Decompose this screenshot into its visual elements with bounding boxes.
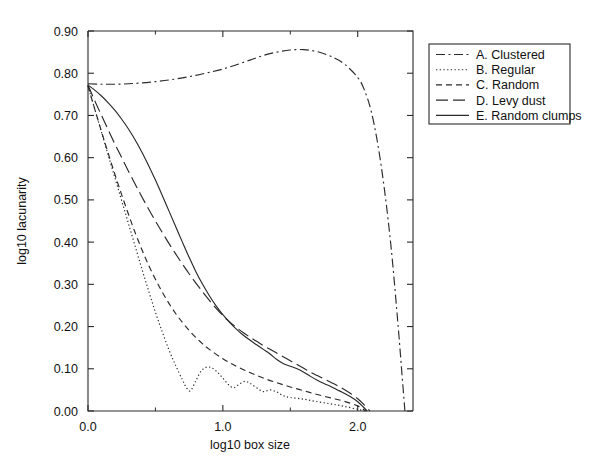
legend-label-random: C. Random [476, 78, 539, 92]
y-axis-title: log10 lacunarity [15, 176, 29, 264]
x-tick-label: 1.0 [214, 420, 231, 434]
y-tick-label: 0.20 [54, 320, 78, 334]
y-tick-label: 0.40 [54, 236, 78, 250]
legend-label-levy-dust: D. Levy dust [476, 94, 546, 108]
legend: A. ClusteredB. RegularC. RandomD. Levy d… [429, 44, 582, 124]
y-tick-label: 0.00 [54, 405, 78, 419]
x-axis-title: log10 box size [210, 438, 290, 452]
y-tick-label: 0.10 [54, 362, 78, 376]
y-tick-label: 0.50 [54, 193, 78, 207]
x-tick-label: 2.0 [349, 420, 366, 434]
y-tick-label: 0.30 [54, 278, 78, 292]
y-tick-label: 0.70 [54, 109, 78, 123]
lacunarity-chart-figure: 0.01.02.0 0.000.100.200.300.400.500.600.… [0, 0, 599, 471]
y-tick-label: 0.60 [54, 151, 78, 165]
y-tick-label: 0.80 [54, 67, 78, 81]
y-tick-label: 0.90 [54, 25, 78, 39]
x-tick-label: 0.0 [79, 420, 96, 434]
legend-label-regular: B. Regular [476, 63, 535, 77]
legend-label-random-clumps: E. Random clumps [476, 109, 582, 123]
legend-label-clustered: A. Clustered [476, 48, 545, 62]
